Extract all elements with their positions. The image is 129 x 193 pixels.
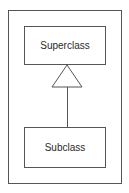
superclass-box: Superclass [25, 27, 106, 65]
superclass-label: Superclass [40, 40, 89, 51]
uml-diagram: Superclass Subclass [0, 0, 129, 193]
subclass-label: Subclass [45, 142, 86, 153]
subclass-box: Subclass [25, 128, 106, 168]
